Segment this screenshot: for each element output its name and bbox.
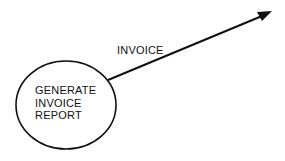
process-label-line-3: REPORT (35, 109, 96, 122)
process-label: GENERATE INVOICE REPORT (35, 84, 96, 122)
diagram-canvas (0, 0, 285, 161)
flow-label: INVOICE (117, 44, 164, 56)
process-label-line-1: GENERATE (35, 84, 96, 97)
process-label-line-2: INVOICE (35, 97, 96, 110)
arrowhead-icon (257, 11, 272, 21)
